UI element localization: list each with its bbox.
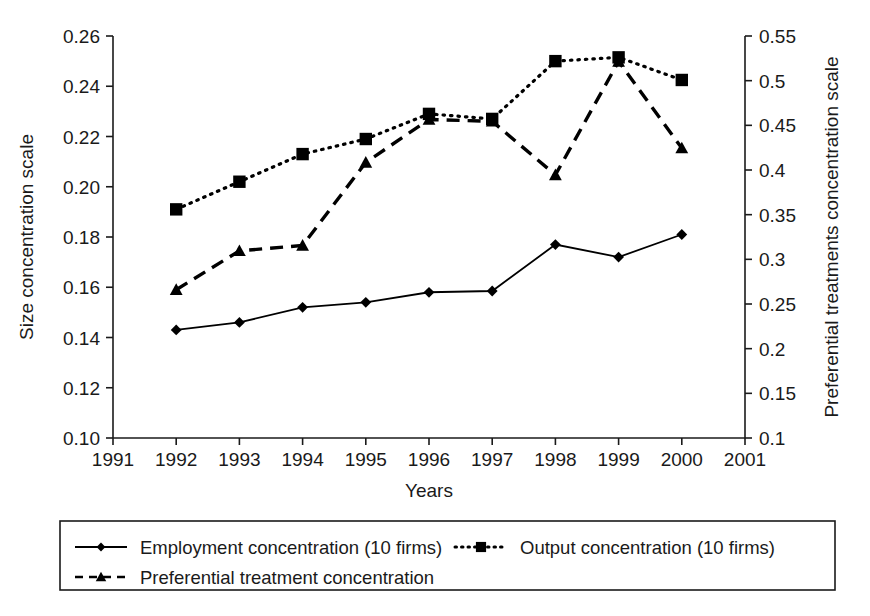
data-point-square: [360, 133, 372, 145]
left-axis-tick-label: 0.18: [63, 227, 100, 248]
x-axis-tick-label: 1995: [345, 449, 387, 470]
legend-label: Output concentration (10 firms): [520, 537, 775, 558]
x-axis-tick-label: 1998: [534, 449, 576, 470]
data-point-square: [170, 203, 182, 215]
plot-area-background: [113, 36, 745, 438]
right-axis-ticks: [745, 36, 752, 438]
left-axis-ticks: [106, 36, 113, 438]
y-axis-title: Size concentration scale: [16, 134, 37, 340]
x-axis-ticks: [113, 438, 745, 445]
x-axis-tick-label: 1993: [218, 449, 260, 470]
x-axis-tick-label: 1991: [92, 449, 134, 470]
right-axis-tick-label: 0.25: [759, 294, 796, 315]
data-point-square: [476, 542, 486, 552]
left-axis-tick-label: 0.10: [63, 428, 100, 449]
left-axis-tick-label: 0.24: [63, 76, 100, 97]
data-point-diamond: [97, 543, 106, 552]
legend-entry[interactable]: Employment concentration (10 firms): [75, 537, 442, 558]
x-axis-tick-label: 1997: [471, 449, 513, 470]
left-axis-tick-label: 0.12: [63, 378, 100, 399]
left-axis-tick-label: 0.16: [63, 277, 100, 298]
right-axis-tick-label: 0.5: [759, 71, 785, 92]
data-point-square: [549, 55, 561, 67]
left-axis-tick-label: 0.20: [63, 177, 100, 198]
left-axis-tick-label: 0.22: [63, 127, 100, 148]
legend-entry[interactable]: Output concentration (10 firms): [455, 537, 775, 558]
right-axis-tick-label: 0.55: [759, 26, 796, 47]
x-axis-tick-label: 1992: [155, 449, 197, 470]
x-axis-title: Years: [405, 480, 453, 501]
left-axis-tick-label: 0.26: [63, 26, 100, 47]
chart-figure: 0.260.240.220.200.180.160.140.120.10 0.5…: [0, 0, 870, 616]
right-axis-tick-label: 0.15: [759, 383, 796, 404]
left-axis-tick-labels: 0.260.240.220.200.180.160.140.120.10: [63, 26, 100, 449]
x-axis-tick-label: 2000: [661, 449, 703, 470]
legend-entries: Employment concentration (10 firms)Outpu…: [75, 537, 775, 588]
y2-axis-title: Preferential treatments concentration sc…: [821, 56, 842, 417]
data-point-square: [676, 74, 688, 86]
data-point-square: [296, 148, 308, 160]
legend-label: Preferential treatment concentration: [140, 567, 434, 588]
x-axis-tick-label: 1999: [597, 449, 639, 470]
right-axis-tick-label: 0.3: [759, 249, 785, 270]
right-axis-tick-label: 0.35: [759, 205, 796, 226]
legend-entry[interactable]: Preferential treatment concentration: [75, 567, 434, 588]
x-axis-tick-label: 1994: [281, 449, 324, 470]
right-axis-tick-label: 0.2: [759, 339, 785, 360]
right-axis-tick-label: 0.1: [759, 428, 785, 449]
line-chart-svg: 0.260.240.220.200.180.160.140.120.10 0.5…: [0, 0, 870, 616]
right-axis-tick-label: 0.45: [759, 115, 796, 136]
x-axis-tick-label: 2001: [724, 449, 766, 470]
right-axis-tick-labels: 0.550.50.450.40.350.30.250.20.150.1: [759, 26, 796, 449]
data-point-square: [233, 176, 245, 188]
left-axis-tick-label: 0.14: [63, 328, 100, 349]
legend-label: Employment concentration (10 firms): [140, 537, 442, 558]
right-axis-tick-label: 0.4: [759, 160, 786, 181]
x-axis-tick-label: 1996: [408, 449, 450, 470]
x-axis-tick-labels: 1991199219931994199519961997199819992000…: [92, 449, 766, 470]
